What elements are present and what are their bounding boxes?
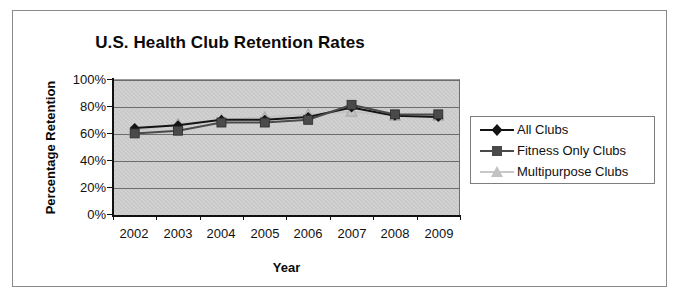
plot-area — [113, 79, 460, 215]
x-tick-label-2008: 2008 — [374, 227, 416, 241]
gridline-80 — [113, 107, 459, 108]
gridline-20 — [113, 188, 459, 189]
legend-label-multipurpose-clubs: Multipurpose Clubs — [517, 164, 628, 179]
x-tick-label-2006: 2006 — [287, 227, 329, 241]
gridline-60 — [113, 134, 459, 135]
chart-title: U.S. Health Club Retention Rates — [0, 33, 460, 53]
x-tick-label-2007: 2007 — [331, 227, 373, 241]
y-tick-mark-100 — [107, 79, 112, 80]
chart-legend: All Clubs Fitness Only Clubs Multipurpos… — [470, 116, 655, 184]
x-tick-label-2003: 2003 — [157, 227, 199, 241]
diamond-marker-icon — [479, 120, 515, 140]
y-tick-label-80: 80% — [62, 100, 106, 113]
y-tick-mark-80 — [107, 106, 112, 107]
square-marker-icon — [479, 141, 515, 161]
x-tick-mark-3 — [243, 216, 244, 220]
legend-item-multipurpose-clubs[interactable]: Multipurpose Clubs — [475, 162, 651, 182]
x-axis-title: Year — [113, 260, 460, 275]
x-tick-mark-5 — [330, 216, 331, 220]
y-axis-title: Percentage Retention — [43, 68, 58, 228]
triangle-marker-icon — [479, 162, 515, 182]
x-tick-mark-6 — [373, 216, 374, 220]
x-tick-mark-0 — [113, 216, 114, 220]
y-tick-mark-60 — [107, 133, 112, 134]
legend-label-fitness-only-clubs: Fitness Only Clubs — [517, 143, 626, 158]
x-tick-label-2004: 2004 — [200, 227, 242, 241]
legend-item-all-clubs[interactable]: All Clubs — [475, 120, 651, 140]
y-tick-mark-0 — [107, 214, 112, 215]
y-tick-label-20: 20% — [62, 181, 106, 194]
y-tick-label-40: 40% — [62, 154, 106, 167]
chart-figure: U.S. Health Club Retention Rates Percent… — [0, 0, 681, 307]
x-tick-mark-1 — [156, 216, 157, 220]
x-tick-label-2005: 2005 — [244, 227, 286, 241]
legend-label-all-clubs: All Clubs — [517, 122, 568, 137]
y-tick-label-100: 100% — [62, 73, 106, 86]
legend-item-fitness-only-clubs[interactable]: Fitness Only Clubs — [475, 141, 651, 161]
x-tick-mark-7 — [417, 216, 418, 220]
y-tick-mark-20 — [107, 187, 112, 188]
y-axis-line — [112, 78, 114, 217]
y-tick-label-0: 0% — [62, 208, 106, 221]
y-tick-label-60: 60% — [62, 127, 106, 140]
x-tick-mark-4 — [286, 216, 287, 220]
gridline-40 — [113, 161, 459, 162]
y-tick-mark-40 — [107, 160, 112, 161]
x-tick-mark-2 — [200, 216, 201, 220]
x-tick-mark-8 — [460, 216, 461, 220]
gridline-100 — [113, 80, 459, 81]
plot-background-texture — [113, 80, 459, 215]
x-tick-label-2002: 2002 — [113, 227, 155, 241]
x-tick-label-2009: 2009 — [418, 227, 460, 241]
